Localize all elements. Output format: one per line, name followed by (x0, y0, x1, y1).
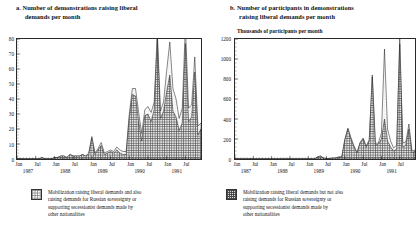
panel-a-xtick-1: Jul (30, 161, 46, 167)
panel-a-legend-line1: Mobilization raising liberal demands and… (48, 189, 203, 196)
panel-a-xtick-2: Jan (48, 161, 64, 167)
panel-b-xtick-3: Jul (284, 161, 300, 167)
panel-b-legend-line3: supporting secessionist demands made by (243, 204, 419, 211)
panel-b-xtick-2: Jan (265, 161, 281, 167)
panel-b-year-1990: 1990 (345, 168, 365, 174)
panel-b-xtick-7: Jul (356, 161, 372, 167)
panel-b-xtick-6: Jan (338, 161, 354, 167)
panel-b-year-1987: 1987 (236, 168, 256, 174)
panel-a-xtick-8: Jan (160, 161, 176, 167)
panel-b-ytick-400: 400 (210, 117, 231, 123)
panel-a-svg (17, 39, 201, 159)
panel-a-xtick-4: Jan (85, 161, 101, 167)
panel-b-svg (235, 39, 415, 159)
panel-b-title-line1: b. Number of participants in demonstrati… (230, 3, 419, 12)
panel-a-xtick-3: Jul (67, 161, 83, 167)
panel-b-ytick-600: 600 (210, 96, 231, 102)
panel-a-ytick-30: 30 (0, 111, 14, 117)
panel-b-title-line2: raising liberal demands per month (230, 12, 419, 21)
panel-b-title: b. Number of participants in demonstrati… (230, 3, 419, 21)
panel-a-legend-text: Mobilization raising liberal demands and… (48, 189, 203, 219)
panel-b-legend-line4: other nationalities (243, 211, 419, 218)
panel-a-ytick-80: 80 (0, 36, 14, 42)
panel-a-year-1990: 1990 (130, 168, 150, 174)
panel-b-xtick-4: Jan (302, 161, 318, 167)
panel-a-plot-area (16, 38, 202, 160)
panel-a-ytick-50: 50 (0, 81, 14, 87)
panel-a-ytick-20: 20 (0, 126, 14, 132)
panel-a-year-1991: 1991 (167, 168, 187, 174)
panel-a-title-line1: a. Number of demonstrations raising libe… (16, 3, 201, 12)
panel-b-xtick-5: Jul (320, 161, 336, 167)
panel-b-legend-line1: Mobilization raising liberal demands but… (243, 189, 419, 196)
panel-b-series-total (235, 39, 415, 159)
panel-a-year-1988: 1988 (55, 168, 75, 174)
panel-a-xtick-7: Jul (141, 161, 157, 167)
panel-a: a. Number of demonstrations raising libe… (0, 0, 209, 232)
panel-b-xtick-0: Jan (229, 161, 245, 167)
panel-b-ytick-1200: 1200 (210, 36, 231, 42)
panel-b-ytick-0: 0 (210, 157, 231, 163)
panel-b-plot-area (234, 38, 416, 160)
panel-b-xtick-1: Jul (247, 161, 263, 167)
panel-b-year-1991: 1991 (382, 168, 402, 174)
panel-a-xtick-5: Jul (104, 161, 120, 167)
panel-a-legend-line2: raising demands for Russian sovereignty … (48, 196, 203, 203)
panel-b-ytick-200: 200 (210, 137, 231, 143)
panel-b-legend-swatch (226, 189, 237, 200)
panel-a-year-1987: 1987 (18, 168, 38, 174)
panel-a-title-line2: demands per month (16, 12, 201, 21)
panel-a-year-1989: 1989 (92, 168, 112, 174)
panel-b-legend-line2: raising demands for Russian sovereignty … (243, 196, 419, 203)
panel-b-legend: Mobilization raising liberal demands but… (226, 189, 419, 219)
panel-a-legend-swatch (31, 189, 42, 200)
panel-a-xtick-6: Jan (123, 161, 139, 167)
panel-a-ytick-10: 10 (0, 142, 14, 148)
panel-b-ytick-800: 800 (210, 76, 231, 82)
panel-a-xtick-0: Jan (11, 161, 27, 167)
panel-b-subtitle: Thousands of participants per month (237, 28, 323, 34)
panel-b-year-1988: 1988 (272, 168, 292, 174)
panel-a-ytick-40: 40 (0, 96, 14, 102)
panel-a-xtick-9: Jul (178, 161, 194, 167)
panel-b-year-1989: 1989 (309, 168, 329, 174)
panel-a-title: a. Number of demonstrations raising libe… (16, 3, 201, 21)
panel-a-ytick-60: 60 (0, 66, 14, 72)
panel-b-legend-text: Mobilization raising liberal demands but… (243, 189, 419, 219)
panel-a-legend: Mobilization raising liberal demands and… (31, 189, 203, 219)
panel-b-xtick-9: Jul (393, 161, 409, 167)
figure-root: a. Number of demonstrations raising libe… (0, 0, 419, 232)
panel-a-ytick-70: 70 (0, 51, 14, 57)
panel-b-series-lower (235, 44, 415, 159)
panel-b: b. Number of participants in demonstrati… (210, 0, 419, 232)
panel-b-ytick-1000: 1000 (210, 56, 231, 62)
panel-a-legend-line3: supporting secessionist demands made by (48, 204, 203, 211)
panel-a-legend-line4: other nationalities (48, 211, 203, 218)
panel-b-xtick-8: Jan (375, 161, 391, 167)
